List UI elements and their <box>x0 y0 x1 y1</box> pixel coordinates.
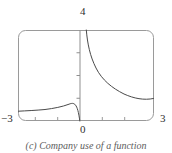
plot-area <box>18 30 154 121</box>
curve-right-branch <box>86 30 153 99</box>
plot-svg <box>18 30 154 121</box>
function-graph-figure: 4 −3 <box>0 0 172 153</box>
curve-left-branch <box>19 103 80 121</box>
y-axis-ticks <box>77 53 81 99</box>
origin-label: 0 <box>80 124 86 135</box>
figure-caption: (c) Company use of a function <box>0 140 172 151</box>
plot-frame-border <box>19 31 154 121</box>
y-axis-max-label: 4 <box>80 6 86 17</box>
x-axis-min-label: −3 <box>1 113 13 124</box>
x-axis-max-label: 3 <box>160 113 166 124</box>
